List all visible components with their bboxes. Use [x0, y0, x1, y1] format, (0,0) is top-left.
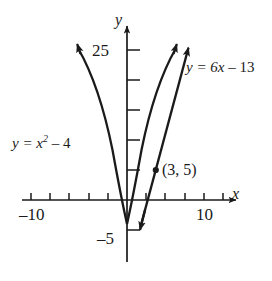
line-equation-lhs: y = 6	[186, 59, 218, 75]
tangency-point-label: (3, 5)	[162, 162, 197, 178]
line-lower-arrow	[140, 210, 145, 230]
parabola-equation-label: y = x2 – 4	[12, 134, 70, 151]
x-tick-label-10: 10	[196, 206, 213, 223]
parabola-equation-suffix: – 4	[48, 135, 71, 151]
y-tick-label-25: 25	[92, 42, 109, 59]
x-tick-label-negative-10: –10	[19, 206, 45, 223]
x-axis-name-label: x	[232, 186, 239, 202]
x-axis	[22, 193, 236, 200]
y-axis-name-label: y	[115, 12, 122, 28]
parabola-right-arrow	[174, 44, 177, 54]
parabola-equation-prefix: y = x	[12, 135, 43, 151]
y-axis-ticks	[127, 50, 140, 230]
y-tick-label-negative-5: –5	[97, 230, 114, 247]
line-equation-rhs: – 13	[224, 59, 254, 75]
line-equation-label: y = 6x – 13	[186, 60, 254, 75]
parabola-left-arrow	[77, 44, 80, 54]
tangency-point-marker	[153, 167, 159, 173]
math-graph-figure: 25 –10 10 –5 x y y = x2 – 4 y = 6x – 13 …	[0, 0, 272, 281]
y-axis	[127, 26, 140, 262]
